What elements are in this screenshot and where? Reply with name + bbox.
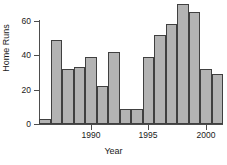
bar	[74, 67, 86, 124]
bars-group	[0, 0, 227, 165]
bar	[177, 4, 189, 124]
home-runs-bar-chart: Home Runs Year 0204060 199019952000	[0, 0, 227, 165]
bar	[189, 12, 201, 124]
bar	[39, 119, 51, 124]
bar	[108, 52, 120, 124]
bar	[85, 57, 97, 124]
bar	[166, 24, 178, 124]
bar	[62, 69, 74, 124]
bar	[154, 35, 166, 124]
bar	[51, 40, 63, 124]
bar	[131, 109, 143, 124]
bar	[120, 109, 132, 124]
bar	[97, 86, 109, 124]
bar	[143, 57, 155, 124]
bar	[212, 74, 224, 124]
bar	[200, 69, 212, 124]
